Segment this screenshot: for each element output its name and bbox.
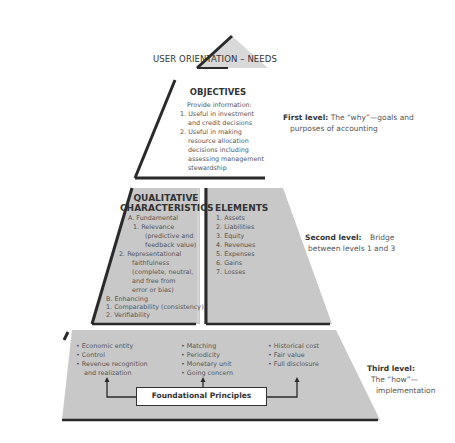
objectives-line-5: decisions including — [188, 146, 249, 155]
third-level-label-text: Third level: — [367, 364, 415, 373]
third-level-text-1: The “how”— — [371, 374, 418, 385]
foundation-col1-3: and realization — [84, 369, 131, 378]
elements-item-4: 5. Expenses — [216, 250, 255, 259]
objectives-line-3: 2. Useful in making — [180, 128, 242, 137]
objectives-line-2: and credit decisions — [188, 119, 252, 128]
qualitative-heading-1: QUALITATIVE — [126, 193, 206, 203]
third-level-text-2: implementation — [376, 385, 435, 396]
apex-label: USER ORIENTATION – NEEDS — [153, 55, 277, 65]
qualitative-line-11: 2. Verifiability — [106, 311, 150, 320]
elements-item-1: 2. Liabilities — [216, 223, 254, 232]
qualitative-line-1: 1. Relevance — [133, 223, 174, 232]
objectives-line-0: Provide information: — [187, 101, 252, 110]
qualitative-heading-2: CHARACTERISTICS — [120, 203, 212, 213]
elements-item-3: 4. Revenues — [216, 241, 255, 250]
qualitative-line-8: error or bias) — [132, 286, 174, 295]
foundation-col2-1: • Periodicity — [181, 351, 220, 360]
second-level-label: Second level: — [305, 233, 362, 242]
elements-heading: ELEMENTS — [215, 203, 268, 213]
foundation-col2-0: • Matching — [181, 342, 216, 351]
objectives-line-4: resource allocation — [188, 137, 249, 146]
objectives-heading: OBJECTIVES — [178, 88, 258, 98]
foundation-col2-2: • Monetary unit — [181, 360, 231, 369]
objectives-line-1: 1. Useful in investment — [180, 110, 254, 119]
qualitative-line-2: (predictive and — [145, 232, 193, 241]
elements-item-6: 7. Losses — [216, 268, 245, 277]
first-level-text-2: purposes of accounting — [290, 123, 378, 134]
first-level-label: First level: — [283, 113, 328, 122]
foundation-col1-1: • Control — [76, 351, 105, 360]
qualitative-line-3: feedback value) — [145, 241, 196, 250]
qualitative-line-4: 2. Representational — [119, 250, 181, 259]
foundation-col1-0: • Economic entity — [76, 342, 133, 351]
elements-item-5: 6. Gains — [216, 259, 242, 268]
first-level-note: First level: The “why”—goals and — [283, 112, 414, 123]
foundation-col1-2: • Revenue recognition — [76, 360, 148, 369]
third-level-label: Third level: — [367, 363, 415, 374]
foundation-col3-0: • Historical cost — [268, 342, 319, 351]
second-level-text-2: between levels 1 and 3 — [308, 243, 395, 254]
qualitative-line-7: and free from — [132, 277, 176, 286]
objectives-line-7: stewardship — [188, 164, 227, 173]
objectives-line-6: assessing management — [188, 155, 264, 164]
elements-item-0: 1. Assets — [216, 214, 245, 223]
foundation-col2-3: • Going concern — [181, 369, 233, 378]
elements-item-2: 3. Equity — [216, 232, 244, 241]
first-level-text-1: The “why”—goals and — [331, 113, 414, 122]
second-level-note: Second level: Bridge — [305, 232, 394, 243]
second-level-text-1: Bridge — [370, 233, 394, 242]
qualitative-line-6: (complete, neutral, — [132, 268, 193, 277]
qualitative-line-5: faithfulness — [132, 259, 169, 268]
foundation-col3-1: • Fair value — [268, 351, 305, 360]
foundational-principles-box: Foundational Principles — [136, 387, 267, 406]
foundation-col3-2: • Full disclosure — [268, 360, 319, 369]
qualitative-line-0: A. Fundamental — [128, 214, 178, 223]
